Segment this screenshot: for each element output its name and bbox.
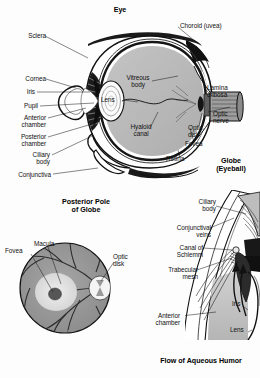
leader-ciliary-body xyxy=(52,136,92,155)
leader-posterior-chamber xyxy=(48,124,92,137)
label-optic-nerve: Optic nerve xyxy=(213,110,229,125)
label-anterior-chamber-aq: Anterior chamber xyxy=(134,312,180,327)
label-canal-of-schlemm: Canal of Schlemm xyxy=(145,244,203,259)
leader-conjunctiva xyxy=(53,168,98,174)
label-conjunctival-veins: Conjunctival veins xyxy=(145,224,211,239)
label-fovea: Fovea xyxy=(185,140,203,147)
label-trabecular-mesh: Trabecular mesh xyxy=(138,266,198,281)
leader-lens-aq xyxy=(248,330,252,332)
label-ciliary-body-aq: Ciliary body xyxy=(172,198,216,213)
label-hyaloid-canal: Hyaloid canal xyxy=(124,123,158,138)
panel-title-aqueous-humor: Flow of Aqueous Humor xyxy=(146,357,256,365)
eye-cross-section-drawing xyxy=(37,27,243,178)
label-ciliary-body: Ciliary body xyxy=(8,151,50,166)
label-optic-disk: Optic disk xyxy=(188,124,203,139)
eye-anatomy-figure: Eye Sclera Cornea Iris Pupil Anterior ch… xyxy=(0,0,260,378)
panel-corner-title-globe: Globe (Eyeball) xyxy=(205,157,257,173)
label-choroid: Choroid (uvea) xyxy=(180,22,222,29)
label-sclera: Sclera xyxy=(6,32,46,39)
fovea-pit xyxy=(49,288,62,300)
label-lens-aq: Lens xyxy=(230,326,244,333)
label-vitreous-body: Vitreous body xyxy=(121,74,155,89)
label-macula: Macula xyxy=(34,240,54,247)
eye-anatomy-artwork xyxy=(0,0,260,378)
label-retina: Retina xyxy=(166,155,184,162)
label-lamina-cribosa: Lamina cribosa xyxy=(207,84,228,99)
leader-sclera xyxy=(45,36,88,58)
leader-cornea xyxy=(46,79,76,88)
label-anterior-chamber: Anterior chamber xyxy=(2,114,46,129)
limbus-dark-block xyxy=(244,238,260,258)
panel-title-eye: Eye xyxy=(96,6,144,14)
label-pupil: Pupil xyxy=(2,102,38,109)
label-cornea: Cornea xyxy=(2,75,46,82)
label-iris-aq: Iris xyxy=(232,300,240,307)
label-iris: Iris xyxy=(2,88,35,95)
label-fovea-fundus: Fovea xyxy=(5,247,23,254)
label-lens: Lens xyxy=(101,96,115,103)
posterior-pole-drawing xyxy=(6,226,114,350)
panel-title-posterior-pole: Posterior Pole of Globe xyxy=(52,198,120,214)
label-optic-disk-fundus: Optic disk xyxy=(113,253,128,268)
label-posterior-chamber: Posterior chamber xyxy=(2,133,46,148)
label-conjunctiva: Conjunctiva xyxy=(2,171,51,178)
